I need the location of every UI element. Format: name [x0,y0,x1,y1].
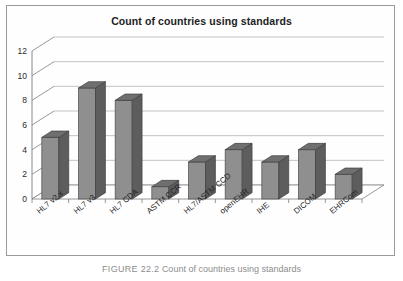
chart-frame: Count of countries using standards 02468… [6,5,395,256]
figure-caption: FIGURE 22.2 Count of countries using sta… [0,264,403,274]
chart-canvas [7,6,396,257]
y-axis-tick-label: 4 [9,145,27,155]
y-axis-tick-label: 10 [9,71,27,81]
figure-caption-number: FIGURE 22.2 [102,264,159,274]
y-axis-tick-label: 0 [9,194,27,204]
y-axis-tick-label: 12 [9,46,27,56]
y-axis-tick-label: 6 [9,120,27,130]
plot-area: 024681012 HL7 v2.xHL7 v3HL7 CDAASTM CCRH… [7,6,396,257]
figure-caption-text: Count of countries using standards [162,264,301,274]
figure-container: Count of countries using standards 02468… [0,0,403,281]
y-axis-tick-label: 2 [9,169,27,179]
y-axis-tick-label: 8 [9,95,27,105]
